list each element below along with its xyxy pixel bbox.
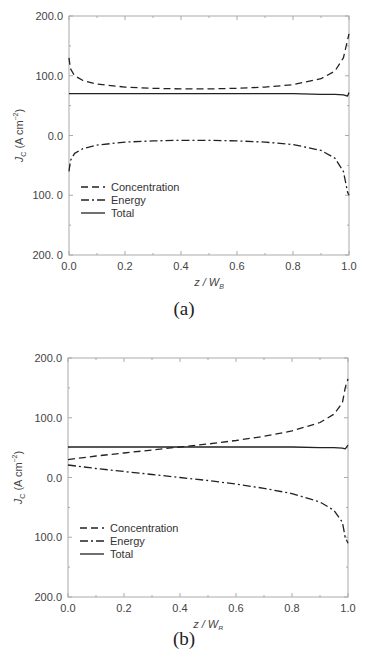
- legend-item-energy: Energy: [110, 535, 145, 547]
- x-tick-label: 0.6: [228, 602, 243, 614]
- chart-b: 200.0100.00.0100.0200.00.00.20.40.60.81.…: [0, 330, 368, 630]
- x-tick-label: 0.2: [117, 260, 132, 272]
- x-tick-label: 0.6: [229, 260, 244, 272]
- x-tick-label: 1.0: [340, 602, 355, 614]
- x-tick-label: 0.2: [116, 602, 131, 614]
- y-axis-label: JC (A cm−2): [11, 451, 26, 505]
- plot-frame: [69, 16, 349, 255]
- legend-item-total: Total: [110, 548, 133, 560]
- y-tick-label: 200.0: [34, 591, 62, 603]
- x-tick-label: 1.0: [341, 260, 356, 272]
- caption-a: (a): [0, 298, 368, 320]
- y-tick-label: 100. 0: [32, 189, 63, 201]
- x-tick-label: 0.8: [285, 260, 300, 272]
- y-tick-label: 200.0: [34, 352, 62, 364]
- y-tick-label: 200. 0: [32, 249, 63, 261]
- x-tick-label: 0.0: [60, 602, 75, 614]
- series-total: [69, 93, 349, 97]
- y-axis-label: JC (A cm−2): [12, 109, 27, 163]
- plot-frame: [68, 358, 348, 597]
- y-tick-label: 100.0: [34, 531, 62, 543]
- chart-panel-b: 200.0100.00.0100.0200.00.00.20.40.60.81.…: [0, 330, 368, 667]
- x-tick-label: 0.4: [172, 602, 187, 614]
- x-tick-label: 0.0: [61, 260, 76, 272]
- x-tick-label: 0.8: [284, 602, 299, 614]
- chart-a: 200.0100.00.0100. 0200. 00.00.20.40.60.8…: [0, 0, 368, 300]
- legend-item-concentration: Concentration: [111, 181, 180, 193]
- chart-panel-a: 200.0100.00.0100. 0200. 00.00.20.40.60.8…: [0, 0, 368, 330]
- legend-item-energy: Energy: [111, 194, 146, 206]
- y-tick-label: 100.0: [34, 412, 62, 424]
- x-axis-label: z / WB: [193, 276, 224, 290]
- y-tick-label: 200.0: [35, 10, 63, 22]
- y-tick-label: 100.0: [35, 70, 63, 82]
- legend-item-concentration: Concentration: [110, 522, 179, 534]
- series-concentration: [69, 34, 349, 89]
- x-tick-label: 0.4: [173, 260, 188, 272]
- caption-b: (b): [0, 628, 368, 650]
- y-tick-label: 0.0: [48, 130, 63, 142]
- series-total: [68, 445, 348, 449]
- legend-item-total: Total: [111, 207, 134, 219]
- y-tick-label: 0.0: [47, 472, 62, 484]
